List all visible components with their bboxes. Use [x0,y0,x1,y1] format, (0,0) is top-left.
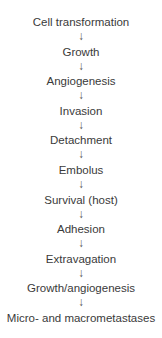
down-arrow-icon: ↓ [78,295,84,311]
step-cell-transformation: Cell transformation [33,15,130,29]
down-arrow-icon: ↓ [78,29,84,45]
down-arrow-icon: ↓ [78,266,84,282]
down-arrow-icon: ↓ [78,118,84,134]
down-arrow-icon: ↓ [78,147,84,163]
down-arrow-icon: ↓ [78,207,84,223]
step-embolus: Embolus [59,163,104,177]
down-arrow-icon: ↓ [78,59,84,75]
step-adhesion: Adhesion [57,222,105,236]
step-angiogenesis: Angiogenesis [46,74,115,88]
step-extravagation: Extravagation [46,252,116,266]
step-invasion: Invasion [60,104,103,118]
step-survival-host: Survival (host) [44,193,118,207]
down-arrow-icon: ↓ [78,88,84,104]
step-detachment: Detachment [50,133,112,147]
down-arrow-icon: ↓ [78,177,84,193]
down-arrow-icon: ↓ [78,236,84,252]
step-growth-angiogenesis: Growth/angiogenesis [27,281,135,295]
metastasis-flowchart: Cell transformation ↓ Growth ↓ Angiogene… [0,15,162,325]
step-micro-macrometastases: Micro- and macrometastases [7,311,155,325]
step-growth: Growth [62,45,99,59]
